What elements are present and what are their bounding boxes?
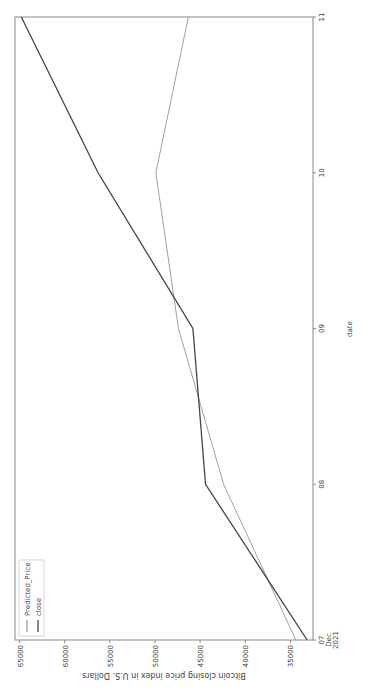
plot-frame: [15, 17, 313, 640]
x-tick-label: 09: [318, 324, 326, 333]
y-axis-label: Bitcoin closing price index in U.S. Doll…: [82, 671, 246, 680]
chart-container: 35000400004500050000550006000065000 07De…: [0, 0, 366, 691]
y-tick-label: 40000: [242, 645, 250, 667]
y-tick-label: 35000: [287, 645, 295, 667]
x-tick-label: 08: [318, 480, 326, 489]
x-tick-label: 07Dec2021: [318, 631, 340, 649]
legend: Predicted_Priceclose: [19, 560, 44, 636]
y-tick-label: 55000: [107, 645, 115, 667]
x-tick-label: 10: [318, 168, 326, 177]
y-tick-label: 60000: [62, 645, 70, 667]
series-line-close: [21, 17, 307, 640]
x-tick-label: 11: [318, 13, 326, 22]
series-line-predicted-price: [156, 17, 296, 640]
y-tick-label: 65000: [17, 645, 25, 667]
y-tick-label: 50000: [152, 645, 160, 667]
legend-label: close: [35, 598, 43, 616]
line-chart: 35000400004500050000550006000065000 07De…: [0, 0, 366, 691]
legend-label: Predicted_Price: [24, 563, 32, 616]
x-axis-label: date: [346, 321, 354, 337]
y-tick-label: 45000: [197, 645, 205, 667]
